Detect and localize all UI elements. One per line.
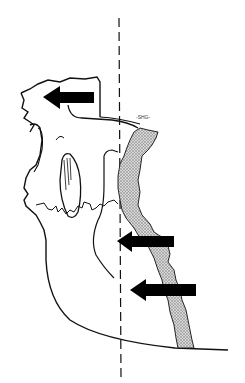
orbit-mark [56, 136, 64, 140]
palate-outline [68, 105, 138, 128]
skull-diagram [0, 0, 245, 383]
orbit-shading [64, 158, 71, 190]
artist-signature: -SHG- [136, 114, 150, 120]
ramus-curve [93, 150, 118, 278]
suture-line [36, 200, 118, 214]
